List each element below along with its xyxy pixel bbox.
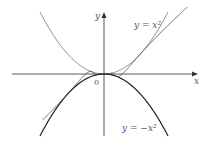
x-axis-label: x	[194, 76, 199, 86]
origin-label: 0	[94, 78, 99, 87]
y-axis-label: y	[94, 11, 101, 21]
y-axis-arrow-icon	[102, 12, 107, 18]
squeeze-plot: x y 0 y = x² y = −x²	[0, 0, 205, 144]
curve-x2-sin-1-over-x	[43, 7, 188, 120]
upper-curve-label: y = x²	[133, 20, 161, 30]
lower-curve-label: y = −x²	[121, 123, 157, 133]
